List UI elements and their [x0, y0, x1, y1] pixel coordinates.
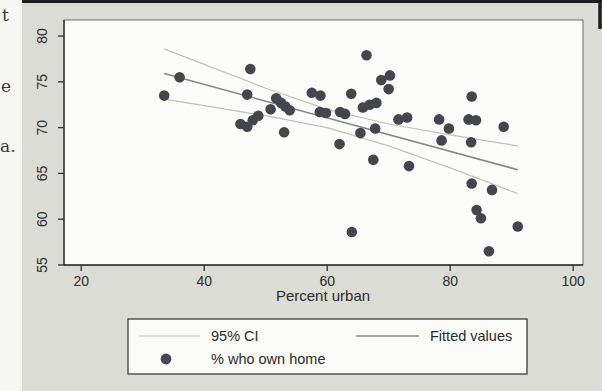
data-point	[284, 105, 295, 116]
data-point	[385, 70, 396, 81]
data-point	[513, 221, 524, 232]
data-point	[361, 50, 372, 61]
data-point	[383, 84, 394, 95]
data-point	[279, 127, 290, 138]
x-tick-label: 80	[442, 273, 458, 289]
data-point	[444, 123, 455, 134]
data-point	[346, 88, 357, 99]
x-axis-title: Percent urban	[276, 287, 370, 304]
legend-label-fitted: Fitted values	[430, 328, 512, 344]
data-point	[466, 137, 477, 148]
margin-glyph-2: e	[1, 76, 11, 96]
data-point	[466, 91, 477, 102]
data-point	[436, 135, 447, 146]
data-point	[355, 128, 366, 139]
data-point	[315, 90, 326, 101]
data-point	[242, 89, 253, 100]
data-point	[402, 112, 413, 123]
legend: 95% CI Fitted values % who own home	[128, 319, 527, 374]
plot-area	[64, 20, 583, 265]
data-point	[321, 108, 332, 119]
data-point	[347, 227, 358, 238]
data-point	[487, 185, 498, 196]
data-point	[174, 72, 185, 83]
data-point	[434, 114, 445, 125]
legend-label-ci: 95% CI	[211, 328, 259, 344]
data-point	[340, 109, 351, 120]
data-point	[498, 121, 509, 132]
data-point	[245, 64, 256, 75]
margin-glyph-1: t	[2, 5, 9, 25]
data-point	[253, 110, 264, 121]
data-point	[265, 104, 276, 115]
data-point	[371, 98, 382, 109]
data-point	[476, 213, 487, 224]
data-point	[466, 178, 477, 189]
data-point	[159, 90, 170, 101]
data-point	[370, 123, 381, 134]
data-point	[334, 139, 345, 150]
y-tick-label: 70	[34, 120, 50, 136]
y-tick-label: 55	[34, 257, 50, 273]
y-tick-label: 65	[34, 165, 50, 181]
data-point	[404, 161, 415, 172]
x-tick-label: 100	[561, 273, 585, 289]
dot-marker-sample-icon	[161, 354, 172, 365]
scanned-page: t e a. 20406080100556065707580 Percent u…	[0, 0, 602, 391]
y-tick-label: 80	[34, 28, 50, 44]
margin-glyph-3: a.	[0, 136, 16, 156]
y-tick-label: 60	[34, 211, 50, 227]
x-tick-label: 40	[196, 273, 212, 289]
data-point	[471, 115, 482, 126]
data-point	[484, 246, 495, 257]
x-tick-label: 20	[73, 273, 89, 289]
legend-label-series: % who own home	[211, 351, 325, 367]
data-point	[368, 154, 379, 165]
y-tick-label: 75	[34, 74, 50, 90]
scatterplot-figure: t e a. 20406080100556065707580 Percent u…	[0, 0, 602, 391]
